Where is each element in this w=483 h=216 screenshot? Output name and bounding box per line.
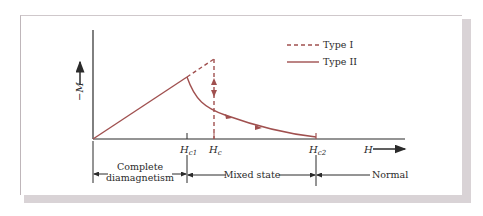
- type-i-dashed-rise: [187, 59, 214, 77]
- tick-label-hc: Hc: [208, 144, 222, 157]
- legend-type-i-label: Type I: [323, 39, 353, 50]
- up-arrow-icon: [211, 78, 217, 85]
- type-ii-curve: [187, 77, 316, 137]
- legend-type-ii-label: Type II: [323, 56, 357, 67]
- x-axis-label: H: [363, 144, 373, 155]
- tick-label-hc1: Hc1: [179, 144, 197, 157]
- y-axis-label: −M: [74, 82, 85, 101]
- region-label-mixed: Mixed state: [224, 169, 281, 180]
- region-label-normal: Normal: [372, 169, 408, 180]
- region-label-complete: Complete: [117, 161, 164, 172]
- magnetization-diagram: −M H Hc1 Hc Hc2 Complete diamagnetism Mi…: [0, 0, 483, 216]
- tick-label-hc2: Hc2: [308, 144, 327, 157]
- down-arrow-icon: [211, 90, 217, 97]
- region-label-diamagnetism: diamagnetism: [106, 172, 174, 183]
- type-ii-linear: [93, 77, 187, 139]
